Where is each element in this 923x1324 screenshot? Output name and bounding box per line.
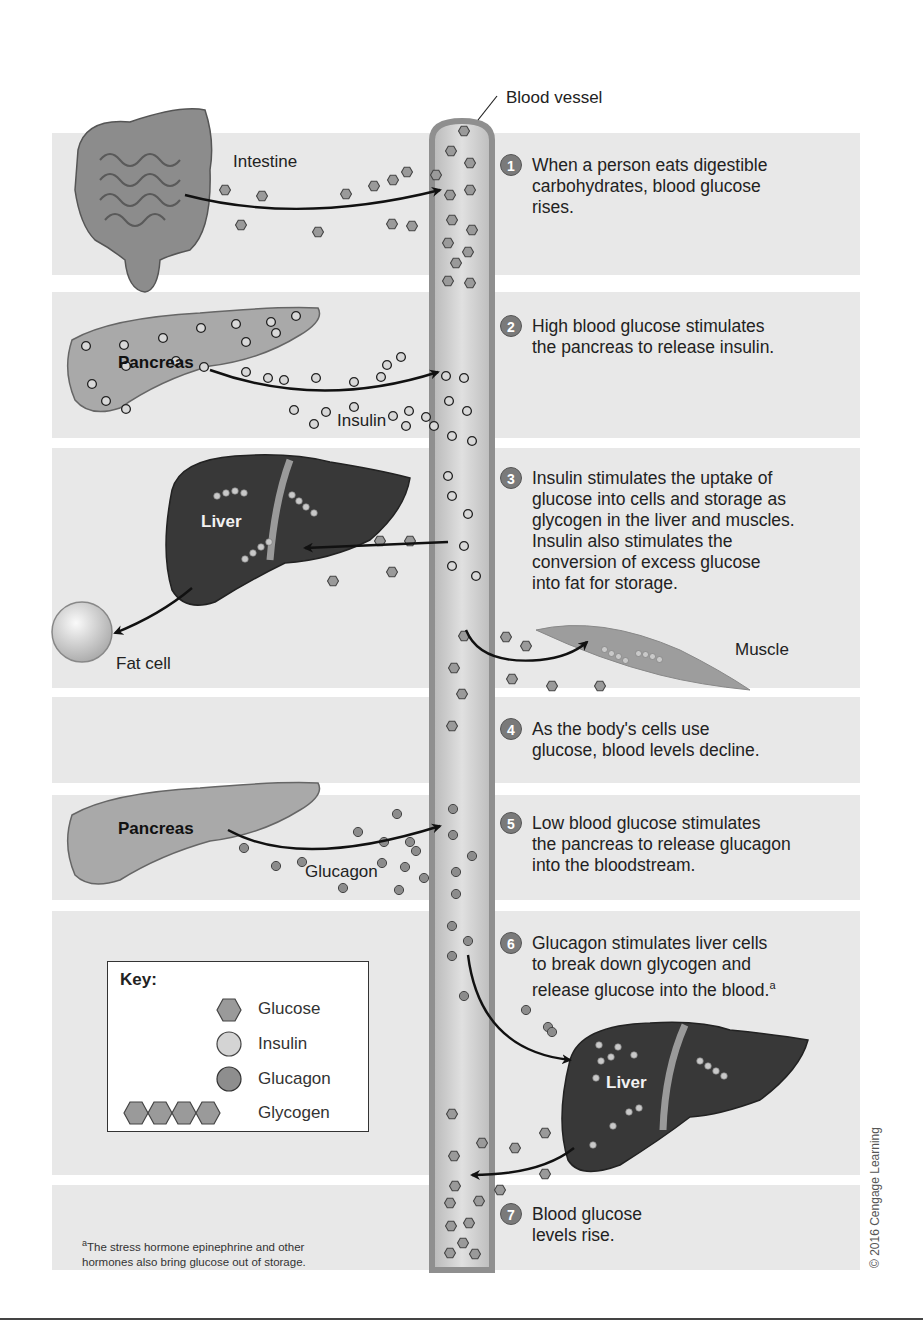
step-6: 6 Glucagon stimulates liver cells to bre… bbox=[500, 933, 776, 1001]
intestine-illustration bbox=[75, 109, 212, 292]
key-label-glycogen: Glycogen bbox=[258, 1103, 330, 1123]
light-circle-icon bbox=[217, 1032, 241, 1056]
key-label-insulin: Insulin bbox=[258, 1034, 307, 1054]
step-text: High blood glucose stimulates the pancre… bbox=[532, 316, 774, 358]
hexagon-icon bbox=[217, 999, 241, 1021]
step-number-badge: 5 bbox=[500, 812, 522, 834]
legend-key: Key: Glucose Insulin Glucagon Glycogen bbox=[107, 961, 369, 1132]
footnote: aThe stress hormone epinephrine and othe… bbox=[82, 1236, 306, 1270]
step-3: 3 Insulin stimulates the uptake of gluco… bbox=[500, 468, 795, 594]
step-text: As the body's cells use glucose, blood l… bbox=[532, 719, 760, 761]
step-text: Glucagon stimulates liver cells to break… bbox=[532, 933, 776, 1001]
liver-bottom-label: Liver bbox=[606, 1073, 647, 1093]
copyright-notice: © 2016 Cengage Learning bbox=[868, 1127, 882, 1268]
step-2: 2 High blood glucose stimulates the panc… bbox=[500, 316, 774, 358]
key-label-glucose: Glucose bbox=[258, 999, 320, 1019]
step-4: 4 As the body's cells use glucose, blood… bbox=[500, 719, 760, 761]
hexagon-chain-icon bbox=[124, 1102, 220, 1124]
dark-circle-icon bbox=[217, 1067, 241, 1091]
pancreas-bottom-label: Pancreas bbox=[118, 819, 194, 839]
intestine-label: Intestine bbox=[233, 152, 297, 172]
muscle-label: Muscle bbox=[735, 640, 789, 660]
footnote-text: The stress hormone epinephrine and other… bbox=[82, 1241, 306, 1268]
step-number-badge: 4 bbox=[500, 718, 522, 740]
step-5: 5 Low blood glucose stimulates the pancr… bbox=[500, 813, 791, 876]
fat-cell-illustration bbox=[52, 602, 112, 662]
insulin-label: Insulin bbox=[337, 411, 386, 431]
step-7: 7 Blood glucose levels rise. bbox=[500, 1204, 642, 1246]
blood-vessel-label: Blood vessel bbox=[506, 88, 602, 108]
step-number-badge: 3 bbox=[500, 467, 522, 489]
liver-top-label: Liver bbox=[201, 512, 242, 532]
step-number-badge: 7 bbox=[500, 1203, 522, 1225]
blood-vessel bbox=[432, 96, 497, 1270]
step-text: When a person eats digestible carbohydra… bbox=[532, 155, 767, 218]
fat-cell-label: Fat cell bbox=[116, 654, 171, 674]
footnote-mark: a bbox=[769, 979, 775, 991]
step-text: Blood glucose levels rise. bbox=[532, 1204, 642, 1246]
step-1: 1 When a person eats digestible carbohyd… bbox=[500, 155, 767, 218]
step-text: Insulin stimulates the uptake of glucose… bbox=[532, 468, 795, 594]
glucagon-label: Glucagon bbox=[305, 862, 378, 882]
step-number-badge: 6 bbox=[500, 932, 522, 954]
bottom-rule bbox=[0, 1318, 923, 1320]
step-number-badge: 1 bbox=[500, 154, 522, 176]
step-number-badge: 2 bbox=[500, 315, 522, 337]
key-label-glucagon: Glucagon bbox=[258, 1069, 331, 1089]
step-text: Low blood glucose stimulates the pancrea… bbox=[532, 813, 791, 876]
step-6-body: Glucagon stimulates liver cells to break… bbox=[532, 933, 769, 1000]
key-icons bbox=[108, 962, 370, 1133]
pancreas-top-label: Pancreas bbox=[118, 353, 194, 373]
muscle-illustration bbox=[536, 626, 750, 691]
